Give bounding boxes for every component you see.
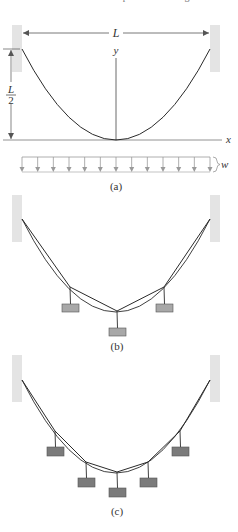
right-wall xyxy=(210,25,220,72)
panel-b-three-weights: (b) xyxy=(12,195,220,353)
hanger-line xyxy=(117,311,118,328)
panel-c-five-weights: (c) xyxy=(12,355,220,518)
load-label: w xyxy=(221,158,229,170)
right-wall xyxy=(210,195,220,242)
span-label: L xyxy=(112,26,120,40)
load-brace-icon xyxy=(213,157,220,172)
caption-b: (b) xyxy=(111,340,124,353)
left-wall xyxy=(12,355,22,402)
hanger-line xyxy=(117,472,118,488)
hanging-weight xyxy=(140,478,157,487)
y-axis-label: y xyxy=(113,44,119,56)
sag-label-denominator: 2 xyxy=(8,94,14,106)
caption-c: (c) xyxy=(111,505,124,518)
left-wall xyxy=(12,195,22,242)
load-arrow-down-icon xyxy=(145,167,150,172)
hanging-weight xyxy=(172,447,189,456)
hanging-weight xyxy=(47,447,64,456)
panel-a-parabolic-cable: LL2xyw(a) xyxy=(3,25,231,193)
hanging-weight xyxy=(156,304,173,312)
left-wall xyxy=(12,25,22,72)
suspension-cable-figure: LL2xyw(a) (b) (c) xyxy=(0,0,238,532)
x-axis-label: x xyxy=(225,133,231,145)
hanging-weight xyxy=(78,478,95,487)
polygonal-cable xyxy=(22,380,210,472)
hanger-line xyxy=(164,287,165,304)
load-arrow-down-icon xyxy=(51,167,56,172)
load-arrow-down-icon xyxy=(98,167,103,172)
reference-parabola xyxy=(22,219,210,312)
hanger-line xyxy=(148,462,149,478)
load-arrow-down-icon xyxy=(161,167,166,172)
reference-parabola xyxy=(22,380,210,473)
hanger-line xyxy=(55,431,56,447)
hanger-line xyxy=(180,431,181,447)
load-arrow-down-icon xyxy=(208,167,213,172)
span-arrow-right-icon xyxy=(203,30,209,36)
caption-a: (a) xyxy=(110,180,123,193)
hanger-line xyxy=(70,287,71,304)
hanging-weight xyxy=(109,488,126,497)
load-arrow-down-icon xyxy=(192,167,197,172)
load-arrow-down-icon xyxy=(176,167,181,172)
load-arrow-down-icon xyxy=(82,167,87,172)
load-arrow-down-icon xyxy=(35,167,40,172)
load-arrow-down-icon xyxy=(20,167,25,172)
sag-arrow-down-icon xyxy=(8,133,14,139)
load-arrow-down-icon xyxy=(67,167,72,172)
hanging-weight xyxy=(62,304,79,312)
polygonal-cable xyxy=(22,219,210,311)
right-wall xyxy=(210,355,220,402)
hanging-weight xyxy=(109,328,126,336)
span-arrow-left-icon xyxy=(23,30,29,36)
load-arrow-down-icon xyxy=(129,167,134,172)
hanger-line xyxy=(86,462,87,478)
load-arrow-down-icon xyxy=(114,167,119,172)
